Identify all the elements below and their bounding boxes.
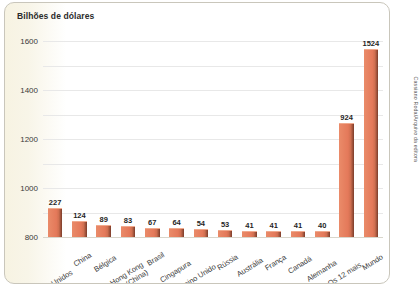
bar-value-label: 67 [148,218,156,227]
bar-value-label: 89 [100,215,108,224]
bar-column[interactable]: 53 [218,41,233,237]
bar-column[interactable]: 67 [145,41,160,237]
bar-column[interactable]: 41 [266,41,281,237]
bar-value-label: 83 [124,216,132,225]
y-axis-tick-label: 1600 [20,37,38,46]
bar-column[interactable]: 924 [339,41,354,237]
bar[interactable] [72,221,87,237]
chart-frame: Bilhões de dólares 020040060080010001200… [4,2,390,284]
bar[interactable] [145,228,160,237]
bar[interactable] [315,231,330,237]
chart-title: Bilhões de dólares [17,11,94,21]
bar[interactable] [194,229,209,237]
bar-column[interactable]: 124 [72,41,87,237]
x-axis-tick-label: França [264,253,288,273]
bar[interactable] [169,228,184,237]
gridline: 0 [43,237,383,238]
bar-value-label: 41 [294,221,302,230]
bar[interactable] [291,231,306,237]
bar-value-label: 124 [73,211,86,220]
bar-series: 227124898367645453414141409241524 [43,41,383,237]
image-credit: Cassiano Roda/Arquivo da editora [413,77,419,162]
bar[interactable] [266,231,281,237]
bar-value-label: 41 [245,221,253,230]
bar-column[interactable]: 41 [291,41,306,237]
bar-column[interactable]: 64 [169,41,184,237]
bar-value-label: 40 [318,221,326,230]
x-axis-tick-label: Hong Kong(China) [108,261,149,284]
bar[interactable] [364,49,379,237]
bar[interactable] [242,231,257,237]
x-axis-tick-label: China [72,251,93,269]
bar-value-label: 227 [49,198,62,207]
bar-column[interactable]: 40 [315,41,330,237]
bar-column[interactable]: 54 [194,41,209,237]
plot-area: 02004006008001000120014001600 2271248983… [43,41,383,237]
bar[interactable] [121,226,136,237]
y-axis-tick-label: 800 [25,233,38,242]
y-axis-tick-label: 1200 [20,135,38,144]
bar-value-label: 53 [221,220,229,229]
bar[interactable] [339,123,354,237]
bar-value-label: 64 [172,218,180,227]
bar-column[interactable]: 83 [121,41,136,237]
bar-column[interactable]: 1524 [364,41,379,237]
bar-column[interactable]: 89 [96,41,111,237]
x-axis-tick-label: Mundo [361,253,385,272]
bar-column[interactable]: 227 [48,41,63,237]
bar[interactable] [48,208,63,237]
bar-value-label: 1524 [363,39,380,48]
y-axis-tick-label: 600 [25,282,38,285]
bar-value-label: 924 [340,113,353,122]
y-axis-tick-label: 1400 [20,86,38,95]
x-axis-tick-label: Bélgica [93,254,118,274]
bar-column[interactable]: 41 [242,41,257,237]
bar-value-label: 54 [197,219,205,228]
bar[interactable] [218,230,233,237]
bar-value-label: 41 [270,221,278,230]
y-axis-tick-label: 1000 [20,184,38,193]
x-axis-tick-label: Brasil [146,251,166,268]
bar[interactable] [96,225,111,237]
